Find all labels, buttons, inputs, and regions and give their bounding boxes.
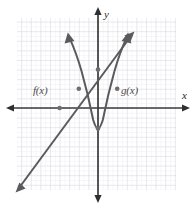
y-axis-down-arrow <box>94 195 101 203</box>
function-label-g: g(x) <box>121 84 138 96</box>
point-g-right <box>115 87 120 92</box>
function-label-f: f(x) <box>33 84 47 96</box>
grid-background <box>17 18 176 190</box>
point-g-vertex <box>96 126 101 131</box>
x-axis-left-arrow <box>6 104 14 111</box>
graph-figure: f(x) g(x) y x <box>0 0 196 210</box>
point-f-x-intercept <box>57 106 62 111</box>
y-axis-up-arrow <box>94 7 101 15</box>
point-f-y-intercept <box>96 67 101 72</box>
coordinate-plane <box>0 0 196 210</box>
y-axis-label: y <box>104 8 109 20</box>
x-axis-right-arrow <box>182 104 190 111</box>
point-intersection-left <box>77 87 82 92</box>
x-axis-label: x <box>182 89 187 101</box>
